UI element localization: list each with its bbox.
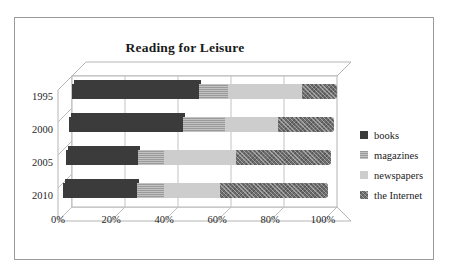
legend-swatch-internet-icon [360,191,368,199]
legend-label: books [374,130,399,141]
bar-segment-newspapers[interactable] [225,117,278,132]
bar-segment-magazines[interactable] [199,84,228,99]
y-tick-label: 2010 [13,190,53,201]
bar-segment-internet[interactable] [302,84,337,99]
bar-segment-books[interactable] [63,183,137,198]
legend-swatch-newspapers-icon [360,171,368,179]
bar-segment-magazines[interactable] [183,117,225,132]
bar-segment-internet[interactable] [236,150,331,165]
bar-segment-magazines[interactable] [138,150,164,165]
legend-swatch-books-icon [360,131,368,139]
chart-figure: Reading for Leisure [14,17,434,260]
chart-legend: books magazines newspapers the Internet [360,125,423,205]
bar-segment-newspapers[interactable] [164,150,236,165]
x-tick-label: 60% [197,214,237,225]
legend-item-magazines[interactable]: magazines [360,145,423,165]
x-tick-label: 40% [144,214,184,225]
bar-segment-books[interactable] [72,84,199,99]
bar-segment-internet[interactable] [220,183,328,198]
legend-label: magazines [374,150,418,161]
legend-label: newspapers [374,170,423,181]
legend-label: the Internet [374,190,422,201]
bar-segment-newspapers[interactable] [164,183,220,198]
y-tick-label: 2000 [13,124,53,135]
x-tick-label: 80% [250,214,290,225]
chart-title: Reading for Leisure [15,40,355,56]
legend-item-internet[interactable]: the Internet [360,185,423,205]
legend-item-books[interactable]: books [360,125,423,145]
bar-segment-newspapers[interactable] [228,84,302,99]
legend-swatch-magazines-icon [360,151,368,159]
y-tick-label: 1995 [13,91,53,102]
bar-segment-books[interactable] [66,150,138,165]
y-tick-label: 2005 [13,157,53,168]
x-tick-label: 100% [303,214,343,225]
legend-item-newspapers[interactable]: newspapers [360,165,423,185]
x-tick-label: 20% [91,214,131,225]
bar-segment-internet[interactable] [278,117,334,132]
x-tick-label: 0% [38,214,78,225]
bar-segment-magazines[interactable] [137,183,164,198]
bar-segment-books[interactable] [69,117,183,132]
plot-area [58,62,337,207]
